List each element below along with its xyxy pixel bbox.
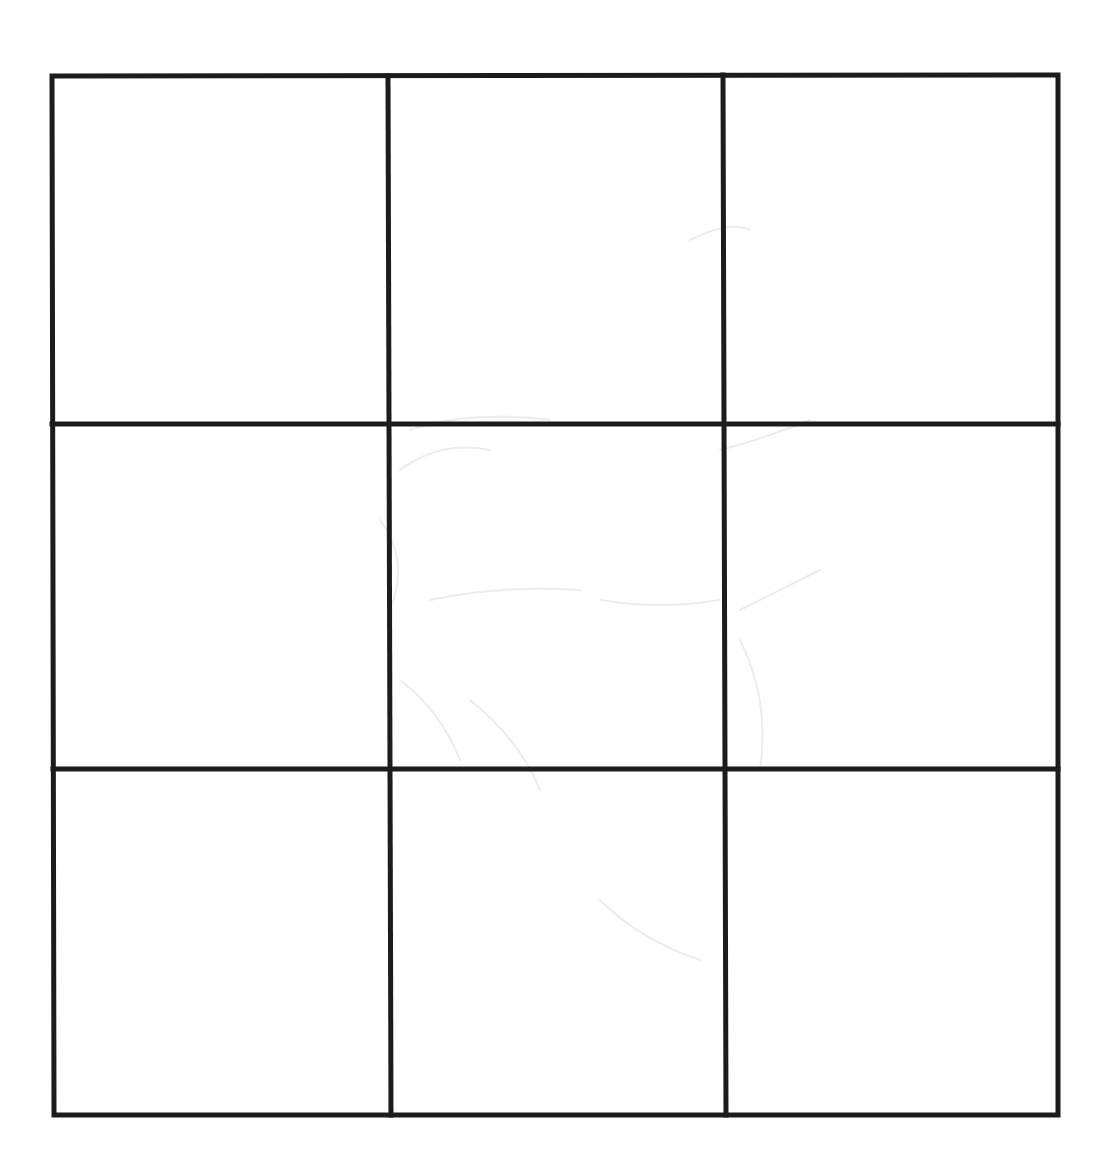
vertical-divider-2: [723, 75, 726, 1115]
grid-cell-r2-c3[interactable]: [726, 427, 1055, 766]
grid-cell-r3-c3[interactable]: [726, 772, 1055, 1112]
grid-cell-r1-c1[interactable]: [55, 79, 385, 421]
grid-cells: [55, 79, 1055, 1112]
grid-cell-r3-c1[interactable]: [55, 772, 385, 1112]
grid-cell-r1-c2[interactable]: [391, 79, 720, 421]
grid-diagram: [0, 0, 1116, 1176]
grid-cell-r3-c2[interactable]: [391, 772, 720, 1112]
grid-cell-r2-c1[interactable]: [55, 427, 385, 766]
grid-cell-r2-c2[interactable]: [391, 427, 720, 766]
vertical-divider-1: [388, 76, 391, 1115]
grid-cell-r1-c3[interactable]: [726, 79, 1055, 421]
